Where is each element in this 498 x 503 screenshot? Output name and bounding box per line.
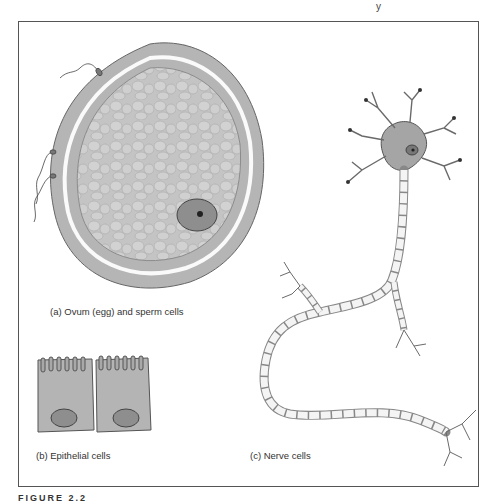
epithelial-cells-drawing xyxy=(38,356,151,432)
neuron-drawing xyxy=(264,88,476,466)
caption-panel-a: (a) Ovum (egg) and sperm cells xyxy=(50,306,184,317)
ovum-drawing xyxy=(50,43,263,288)
caption-panel-b: (b) Epithelial cells xyxy=(36,450,110,461)
caption-panel-c: (c) Nerve cells xyxy=(250,450,311,461)
figure-label: FIGURE 2.2 xyxy=(18,493,87,503)
